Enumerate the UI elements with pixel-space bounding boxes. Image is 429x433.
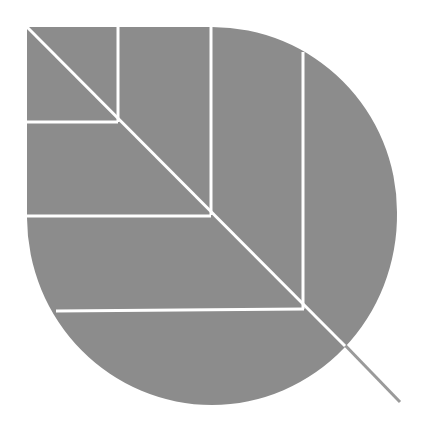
vein-3-horizontal (56, 309, 304, 311)
leaf-stem (340, 340, 400, 402)
leaf-icon (0, 0, 429, 433)
